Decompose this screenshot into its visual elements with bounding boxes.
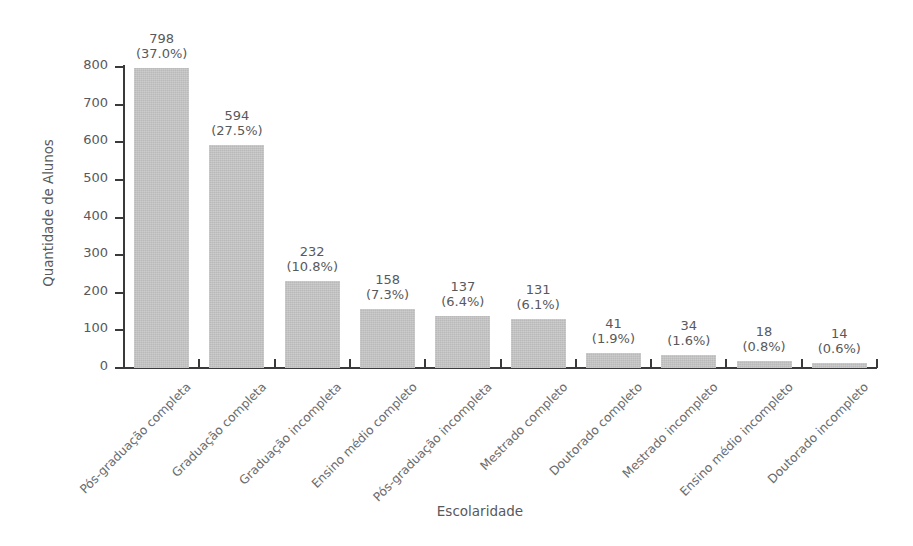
y-axis-tick-label: 300 [83, 245, 108, 260]
y-axis-tick-mark [115, 329, 124, 331]
y-axis-title: Quantidade de Alunos [40, 103, 56, 323]
bar [360, 309, 415, 368]
bar [661, 355, 716, 368]
y-axis-tick-label: 600 [83, 132, 108, 147]
bar-chart: Quantidade de Alunos 0100200300400500600… [0, 0, 913, 546]
bar-value-label: 14(0.6%) [779, 326, 899, 356]
x-axis-title: Escolaridade [0, 503, 913, 519]
x-axis-category-label: Pós-graduação incompleta [370, 380, 494, 504]
y-axis-tick-label: 700 [83, 95, 108, 110]
bar-value-label: 594(27.5%) [177, 108, 297, 138]
y-axis-tick-mark [115, 66, 124, 68]
y-axis-tick-label: 0 [100, 358, 108, 373]
y-axis-tick-label: 200 [83, 283, 108, 298]
y-axis-tick-mark [115, 367, 124, 369]
bar-count: 232 [300, 244, 325, 259]
bar [586, 353, 641, 368]
bar [435, 316, 490, 368]
bar-count: 798 [149, 31, 174, 46]
bar-count: 158 [375, 272, 400, 287]
bar-value-label: 798(37.0%) [102, 31, 222, 61]
bar-percent: (37.0%) [102, 46, 222, 61]
bar-percent: (6.1%) [478, 297, 598, 312]
bar-count: 14 [831, 326, 848, 341]
y-axis-tick-mark [115, 292, 124, 294]
y-axis-tick-label: 100 [83, 320, 108, 335]
bar-count: 41 [605, 316, 622, 331]
y-axis-tick-label: 400 [83, 208, 108, 223]
bar [812, 363, 867, 368]
bar-value-label: 232(10.8%) [252, 244, 372, 274]
bar-count: 594 [225, 108, 250, 123]
bar-count: 18 [756, 324, 773, 339]
y-axis-tick-mark [115, 141, 124, 143]
bar-percent: (27.5%) [177, 123, 297, 138]
y-axis-tick-mark [115, 254, 124, 256]
y-axis-tick-mark [115, 179, 124, 181]
bar-count: 131 [526, 282, 551, 297]
bar-percent: (0.6%) [779, 341, 899, 356]
bar [737, 361, 792, 368]
bar-count: 34 [680, 318, 697, 333]
bar-value-label: 131(6.1%) [478, 282, 598, 312]
y-axis-tick-mark [115, 104, 124, 106]
bar-count: 137 [450, 279, 475, 294]
y-axis-tick-label: 500 [83, 170, 108, 185]
y-axis-tick-mark [115, 217, 124, 219]
x-axis-category-label: Pós-graduação completa [77, 380, 193, 496]
